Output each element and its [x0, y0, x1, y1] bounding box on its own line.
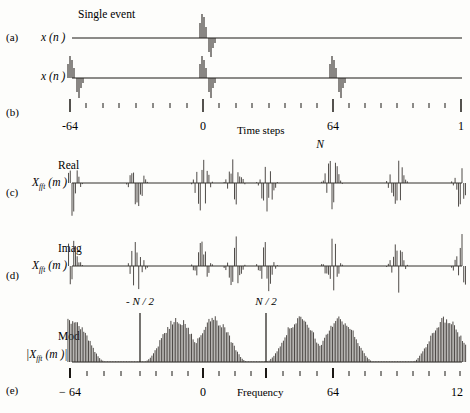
panel-d-ylabel-top: Imag	[58, 242, 82, 255]
panel-c-ylabel: Xfft(m )	[31, 176, 67, 191]
panel-d-tag: (d)	[6, 269, 19, 282]
freq-tick-minus64: − 64	[59, 385, 81, 399]
panel-d-ylabel: Xfft(m )	[31, 259, 67, 274]
freq-tick-zero: 0	[200, 385, 206, 399]
panel-a-ylabel: x(n )	[40, 31, 66, 44]
time-axis-ticks	[70, 99, 461, 112]
time-tick-64: 64	[327, 119, 339, 133]
panel-d-bars	[69, 234, 466, 293]
freq-axis-ticks	[70, 368, 460, 378]
single-event-annotation: Single event	[78, 8, 136, 21]
freq-tick-end: 12	[451, 385, 463, 399]
panel-c-ylabel-top: Real	[58, 159, 79, 171]
panel-b-group: (b) x(n )	[6, 56, 464, 150]
figure-canvas: (a) x(n ) Single event (b) x(n )	[0, 0, 470, 413]
panel-a-group: (a) x(n ) Single event	[6, 8, 462, 57]
panel-b-ylabel: x(n )	[40, 70, 66, 83]
panel-e-ylabel-top: Mod	[58, 330, 80, 342]
panel-e-group: (e) Mod |Xfft(m )| - N / 2 N / 2	[6, 295, 466, 399]
marker-pos-half-n-label: N / 2	[254, 295, 277, 307]
freq-axis-label: Frequency	[237, 386, 284, 398]
panel-c-group: (c) Real Xfft(m )	[6, 159, 465, 216]
freq-tick-64: 64	[327, 385, 339, 399]
panel-e-tag: (e)	[6, 384, 19, 397]
panel-b-tag: (b)	[6, 106, 19, 119]
time-tick-minus64: -64	[62, 119, 78, 133]
n-marker-label: N	[315, 138, 325, 150]
time-tick-end: 1	[458, 119, 464, 133]
marker-neg-half-n-label: - N / 2	[126, 295, 154, 307]
panel-c-bars	[69, 159, 466, 215]
panel-e-ylabel: |Xfft(m )|	[26, 348, 67, 363]
panel-a-spikes	[200, 14, 215, 57]
dsp-figure: (a) x(n ) Single event (b) x(n )	[0, 0, 470, 413]
panel-c-tag: (c)	[6, 186, 19, 199]
panel-e-bars	[68, 316, 466, 362]
panel-a-tag: (a)	[6, 31, 19, 44]
panel-d-group: (d) Imag Xfft(m )	[6, 234, 465, 293]
panel-b-spikes	[68, 56, 345, 98]
time-tick-zero: 0	[200, 119, 206, 133]
time-axis-label: Time steps	[237, 124, 285, 136]
